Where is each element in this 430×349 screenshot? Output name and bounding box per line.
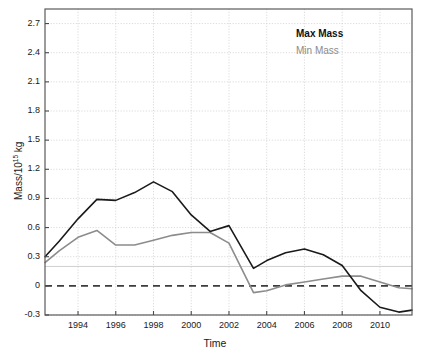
y-axis-label-exponent: 15 [12, 155, 19, 162]
x-tick-label: 2010 [360, 320, 400, 330]
y-axis-label-suffix: kg [13, 142, 24, 155]
y-tick-label: 0 [35, 280, 40, 290]
x-tick-label: 2004 [247, 320, 287, 330]
y-tick-label: 2.7 [27, 18, 40, 28]
x-tick-label: 2006 [284, 320, 324, 330]
legend-item-max-mass: Max Mass [296, 28, 343, 39]
x-tick-label: 2000 [171, 320, 211, 330]
y-tick-label: 0.9 [27, 192, 40, 202]
y-tick-label: 0.6 [27, 222, 40, 232]
x-tick-label: 2002 [209, 320, 249, 330]
y-tick-label: 2.4 [27, 47, 40, 57]
x-tick-label: 1998 [133, 320, 173, 330]
x-tick-label: 1996 [96, 320, 136, 330]
mass-time-line-chart: Mass/1015 kg Time Max Mass Min Mass -0.3… [0, 0, 430, 349]
y-tick-label: 1.5 [27, 134, 40, 144]
x-axis-label: Time [0, 337, 430, 349]
y-axis-label-prefix: Mass/10 [13, 162, 24, 200]
y-tick-label: -0.3 [24, 309, 40, 319]
y-axis-label: Mass/1015 kg [12, 142, 24, 200]
x-tick-label: 2008 [322, 320, 362, 330]
x-tick-label: 1994 [58, 320, 98, 330]
y-tick-label: 1.8 [27, 105, 40, 115]
legend-item-min-mass: Min Mass [296, 45, 339, 56]
plot-background [45, 9, 412, 315]
y-tick-label: 0.3 [27, 251, 40, 261]
y-tick-label: 2.1 [27, 76, 40, 86]
y-tick-label: 1.2 [27, 163, 40, 173]
plot-area [0, 0, 430, 349]
